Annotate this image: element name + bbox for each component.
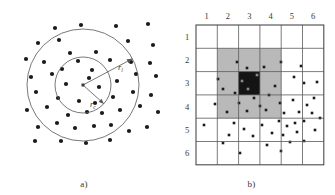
scatter-dot — [25, 108, 29, 112]
grid-scatter-dot — [228, 134, 231, 137]
panel-b-caption: b) — [168, 179, 335, 189]
column-labels: 123456 — [205, 11, 316, 21]
grid-scatter-dot — [289, 141, 292, 144]
grid-scatter-dot — [282, 134, 285, 137]
scatter-dot — [77, 99, 81, 103]
scatter-dot — [127, 129, 131, 133]
grid-scatter-dot — [271, 132, 274, 135]
grid-scatter-dot — [286, 125, 289, 128]
grid-scatter-dot — [278, 120, 281, 123]
inner-radius-label: rc — [90, 99, 96, 110]
scatter-dot — [50, 72, 54, 76]
grid-scatter-dot — [222, 88, 225, 91]
column-label: 2 — [226, 11, 230, 21]
scatter-dot — [29, 75, 33, 79]
scatter-dot — [66, 113, 70, 117]
grid-scatter-dot — [298, 111, 301, 114]
grid-scatter-dot — [303, 82, 306, 85]
scatter-dot — [145, 125, 149, 129]
grid-scatter-dot — [303, 120, 306, 123]
scatter-dot — [57, 38, 61, 42]
scatter-dot — [114, 24, 118, 28]
scatter-dot — [151, 43, 155, 47]
grid-scatter-dot — [252, 135, 255, 138]
grid-scatter-dot — [293, 76, 296, 79]
grid-scatter-dot — [292, 99, 295, 102]
scatter-dot — [55, 121, 59, 125]
figure-container: rl rc a) 123456 123456 b) — [0, 0, 335, 195]
grid-scatter-dot — [246, 110, 249, 113]
grid-scatter-dot — [314, 129, 317, 132]
row-label: 5 — [185, 125, 189, 135]
grid-scatter-dot — [226, 111, 229, 114]
grid-scatter-dot — [265, 109, 268, 112]
grid-scatter-dot — [247, 88, 250, 91]
grid-scatter-dot — [316, 81, 319, 84]
row-labels: 123456 — [185, 32, 190, 158]
row-label: 3 — [185, 78, 189, 88]
scatter-dot — [100, 111, 104, 115]
row-label: 6 — [185, 148, 189, 158]
scatter-dot — [36, 41, 40, 45]
scatter-dot — [68, 51, 72, 55]
grid-scatter-dot — [306, 104, 309, 107]
outer-radius-line — [83, 59, 132, 85]
column-label: 6 — [311, 11, 315, 21]
scatter-dot — [87, 76, 91, 80]
scatter-dot — [60, 67, 64, 71]
grid-scatter-dot — [241, 80, 244, 83]
panel-a-circles: rl rc a) — [0, 0, 168, 195]
scatter-dot — [34, 90, 38, 94]
grid-scatter-dot — [274, 85, 277, 88]
scatter-dot — [90, 68, 94, 72]
column-label: 1 — [205, 11, 209, 21]
scatter-dot — [146, 22, 150, 26]
scatter-dot — [36, 125, 40, 129]
scatter-dot — [108, 58, 112, 62]
scatter-dot — [45, 105, 49, 109]
grid-scatter-dot — [313, 97, 316, 100]
grid-scatter-dot — [296, 131, 299, 134]
grid-scatter-dot — [263, 66, 266, 69]
grid-scatter-dot — [283, 112, 286, 115]
scatter-dot — [156, 110, 160, 114]
scatter-dot — [148, 61, 152, 65]
grid-highlight-cells — [217, 48, 281, 118]
grid-scatter-dot — [243, 128, 246, 131]
panel-a-canvas: rl rc — [0, 0, 168, 168]
row-label: 4 — [185, 102, 190, 112]
grid-scatter-dot — [222, 142, 225, 145]
grid-scatter-dot — [311, 112, 314, 115]
scatter-dot — [59, 139, 63, 143]
scatter-dot — [131, 90, 135, 94]
row-label: 2 — [185, 55, 189, 65]
grid-scatter-dot — [203, 124, 206, 127]
grid-lines — [196, 25, 324, 165]
scatter-dot — [94, 50, 98, 54]
scatter-dot — [85, 110, 89, 114]
scatter-dot — [115, 79, 119, 83]
scatter-dot — [108, 138, 112, 142]
grid-scatter-dot — [239, 152, 242, 155]
scatter-dot — [118, 108, 122, 112]
column-label: 5 — [290, 11, 294, 21]
grid-scatter-dot — [236, 61, 239, 64]
grid-scatter-dot — [261, 124, 264, 127]
grid-scatter-dot — [266, 144, 269, 147]
scatter-dot — [64, 82, 68, 86]
scatter-dot — [97, 85, 101, 89]
scatter-dot — [109, 123, 113, 127]
scatter-dot — [79, 23, 83, 27]
scatter-dot — [138, 104, 142, 108]
panel-a-caption: a) — [0, 179, 168, 189]
grid-scatter-dot — [214, 103, 217, 106]
panel-b-canvas: 123456 123456 — [168, 0, 335, 172]
scatter-dot — [73, 126, 77, 130]
grid-scatter-dot — [233, 122, 236, 125]
grid-scatter-dot — [256, 74, 259, 77]
grid-scatter-dot — [294, 122, 297, 125]
scatter-dot — [92, 124, 96, 128]
scatter-dot — [42, 60, 46, 64]
grid-scatter-dot — [246, 67, 249, 70]
scatter-dot — [154, 74, 158, 78]
